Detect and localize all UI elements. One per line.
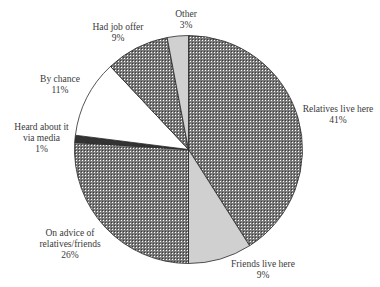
label-had-job-offer: Had job offer9% <box>78 22 158 44</box>
label-other: Other3% <box>164 9 208 31</box>
label-heard-via-media: Heard about itvia media1% <box>4 122 79 155</box>
label-relatives-live-here: Relatives live here41% <box>296 104 380 126</box>
label-by-chance: By chance11% <box>25 74 95 96</box>
label-friends-live-here: Friends live here9% <box>218 259 308 281</box>
label-on-advice: On advice ofrelatives/friends26% <box>20 228 120 261</box>
